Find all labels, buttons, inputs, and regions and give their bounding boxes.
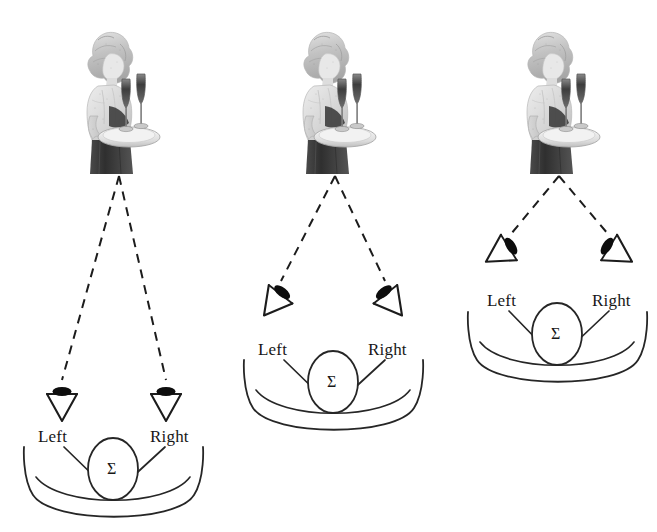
microphone-icon[interactable]	[369, 279, 414, 324]
figure-canvas: Left Right Σ Left Right Σ Left Right Σ	[0, 0, 657, 532]
source-figure-3	[527, 32, 600, 174]
mic-label-left: Left	[38, 427, 67, 447]
sum-symbol: Σ	[107, 460, 116, 478]
source-figure-1	[87, 32, 160, 174]
microphone-icon[interactable]	[47, 387, 77, 421]
mic-label-right: Right	[150, 427, 189, 447]
diagram-vector-layer	[0, 0, 657, 532]
sum-symbol: Σ	[327, 373, 336, 391]
panel-near-coincident-pair	[244, 32, 423, 429]
mic-label-right: Right	[592, 291, 631, 311]
mic-label-left: Left	[487, 291, 516, 311]
microphone-icon[interactable]	[252, 279, 297, 324]
microphone-icon[interactable]	[595, 231, 640, 275]
mic-label-right: Right	[368, 340, 407, 360]
microphone-icon[interactable]	[151, 387, 181, 421]
source-figure-2	[303, 32, 376, 174]
microphone-icon[interactable]	[478, 231, 523, 275]
sum-symbol: Σ	[551, 325, 560, 343]
sound-path-dashed-line	[62, 176, 166, 380]
sound-path-dashed-line	[281, 176, 385, 281]
mic-label-left: Left	[258, 340, 287, 360]
sound-path-dashed-line	[511, 176, 608, 234]
